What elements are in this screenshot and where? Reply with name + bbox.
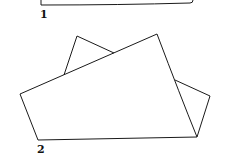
back-sheet-left-corner [64,36,114,75]
panel-1-shape [41,0,193,5]
panel-2-front-sheet [20,34,197,140]
panel-label-1: 1 [40,9,48,20]
back-sheet-right-corner [175,80,210,137]
diagram-canvas [0,0,226,164]
panel-label-2: 2 [37,144,45,155]
panel-2-back-sheet [64,36,210,137]
